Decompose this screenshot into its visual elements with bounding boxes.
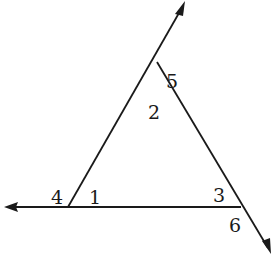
angle-label-4: 4 (51, 186, 63, 208)
triangle-diagram: 5 2 4 1 3 6 (0, 0, 272, 254)
angle-label-2: 2 (148, 101, 160, 123)
angle-label-5: 5 (166, 70, 178, 92)
angle-label-3: 3 (213, 184, 225, 206)
angle-label-1: 1 (89, 186, 101, 208)
arrowhead-left-icon (4, 202, 18, 212)
line-left-side-extended (68, 6, 183, 207)
arrowhead-up-right-icon (175, 1, 185, 16)
angle-label-6: 6 (229, 214, 241, 236)
